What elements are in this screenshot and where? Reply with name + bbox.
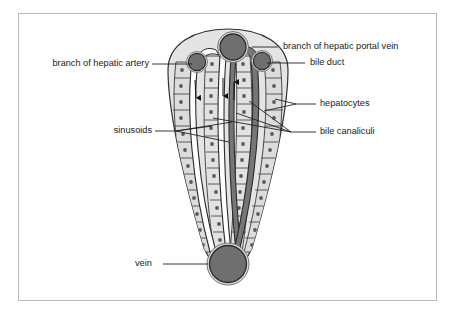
vessel-bile-duct <box>252 51 273 72</box>
vessel-branch-of-hepatic-artery <box>187 52 208 73</box>
label-branch-of-hepatic-artery: branch of hepatic artery <box>52 58 149 68</box>
label-hepatocytes: hepatocytes <box>320 98 370 108</box>
vessel-central-vein <box>207 243 249 285</box>
label-bile-duct: bile duct <box>310 57 345 67</box>
diagram-page: branch of hepatic portal vein bile duct … <box>0 0 455 314</box>
liver-lobule-diagram: branch of hepatic portal vein bile duct … <box>0 0 455 314</box>
label-vein: vein <box>135 258 152 268</box>
label-bile-canaliculi: bile canaliculi <box>320 126 375 136</box>
label-sinusoids: sinusoids <box>114 125 153 135</box>
vessel-branch-of-hepatic-portal-vein <box>218 32 249 63</box>
label-branch-of-hepatic-portal-vein: branch of hepatic portal vein <box>283 41 398 51</box>
